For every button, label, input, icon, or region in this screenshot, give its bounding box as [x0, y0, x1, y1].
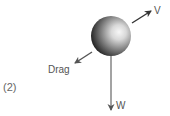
drag-label: Drag — [48, 65, 70, 75]
diagram-canvas — [0, 0, 170, 116]
velocity-arrow — [132, 11, 151, 23]
weight-label: W — [116, 101, 125, 111]
figure-number: (2) — [3, 82, 16, 93]
velocity-label: V — [154, 6, 161, 16]
sphere — [91, 16, 131, 56]
drag-arrow — [75, 52, 92, 63]
force-diagram: V Drag W (2) — [0, 0, 170, 116]
